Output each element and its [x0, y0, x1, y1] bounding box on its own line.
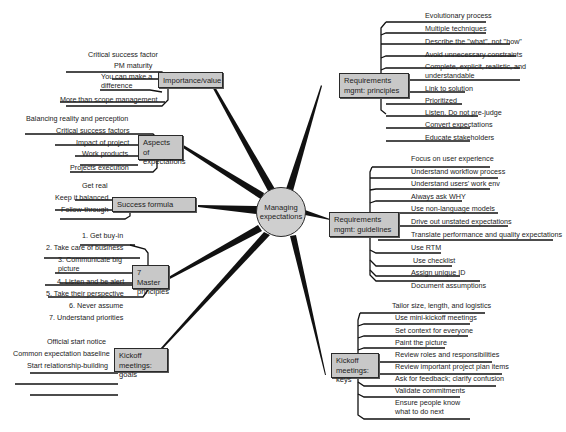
leaf-item: 4. Listen and be alert	[57, 277, 124, 286]
leaf-item: 3. Communicate big picture	[58, 255, 126, 273]
branch-importance-value[interactable]: Importance/value	[158, 72, 223, 88]
spoke-kickoff-goals	[152, 232, 270, 359]
spoke-req-guidelines	[305, 210, 330, 220]
leaf-item: Review roles and responsibilities	[395, 350, 499, 359]
leaf-item: Focus on user experience	[411, 154, 494, 163]
leaf-item: Evolutionary process	[425, 11, 492, 20]
leaf-item: 6. Never assume	[69, 301, 123, 310]
branch-label: Importance/value	[163, 76, 221, 85]
branch-label: Requirements mgmt: guidelines	[334, 215, 391, 234]
branch-7-master-principles[interactable]: 7 Master principles	[132, 265, 169, 289]
branch-kickoff-meetings-keys[interactable]: Kickoff meetings: keys	[331, 353, 379, 378]
leaf-item: Paint the picture	[395, 338, 447, 347]
leaf-item: Get real	[82, 181, 108, 190]
leaf-item: Use checklist	[413, 256, 455, 265]
leaf-item: Listen. Do not pre-judge	[425, 108, 502, 117]
leaf-item: Link to solution	[425, 84, 473, 93]
leaf-item: Start relationship-building	[27, 361, 108, 370]
leaf-item: Critical success factors	[56, 126, 130, 135]
spoke-importance	[209, 80, 275, 191]
spoke-success	[198, 205, 257, 214]
leaf-item: 5. Take their perspective	[46, 289, 124, 298]
leaf-item: Work products	[82, 149, 128, 158]
leaf-item: You can make a difference	[101, 72, 157, 90]
branch-label: 7 Master principles	[137, 268, 169, 296]
leaf-item: Understand users' work env	[411, 179, 500, 188]
leaf-item: Balancing reality and perception	[26, 114, 128, 123]
leaf-item: Use non-language models	[411, 204, 495, 213]
branch-requirements-principles[interactable]: Requirements mgmt: principles	[339, 73, 409, 98]
leaf-item: More than scope management	[60, 95, 158, 104]
leaf-item: Educate stakeholders	[425, 133, 494, 142]
branch-kickoff-meetings-goals[interactable]: Kickoff meetings: goals	[114, 348, 168, 372]
leaf-item: Assign unique ID	[411, 268, 465, 277]
leaf-item: Keep it balanced	[55, 193, 109, 202]
leaf-item: Translate performance and quality expect…	[411, 230, 562, 239]
leaf-item: Document assumptions	[411, 281, 486, 290]
leaf-item: Validate commitments	[395, 386, 465, 395]
leaf-item: Use mini-kickoff meetings	[395, 313, 477, 322]
leaf-item: Understand workflow process	[411, 167, 505, 176]
center-node[interactable]: Managing expectations	[256, 187, 306, 237]
leaf-item: Ensure people know what to do next	[395, 398, 477, 416]
branch-requirements-guidelines[interactable]: Requirements mgmt: guidelines	[329, 212, 399, 237]
leaf-item: Follow-through	[61, 205, 109, 214]
leaf-item: Common expectation baseline	[13, 349, 110, 358]
leaf-item: Drive out unstated expectations	[411, 217, 512, 226]
leaf-item: 1. Get buy-in	[82, 231, 123, 240]
leaf-item: Impact of project	[76, 138, 129, 147]
leaf-item: Tailor size, length, and logistics	[392, 301, 491, 310]
leaf-item: Official start notice	[47, 337, 106, 346]
leaf-item: Ask for feedback; clarify confusion	[395, 374, 504, 383]
leaf-item: Use RTM	[411, 243, 441, 252]
leaf-item: Avoid unnecessary constraints	[425, 50, 522, 59]
branch-label: Requirements mgmt: principles	[344, 76, 399, 95]
leaf-item: Set context for everyone	[395, 326, 473, 335]
branch-aspects-of-expectations[interactable]: Aspects of expectations	[138, 135, 183, 160]
leaf-item: PM maturity	[114, 61, 152, 70]
leaf-item: Review important project plan items	[395, 362, 509, 371]
leaf-item: Critical success factor	[88, 50, 158, 59]
leaf-item: Describe the "what", not "how"	[425, 37, 522, 46]
leaf-item: Prioritized	[425, 96, 457, 105]
spoke-kickoff-keys	[290, 235, 326, 375]
leaf-item: 7. Understand priorities	[49, 313, 123, 322]
leaf-item: Always ask WHY	[411, 192, 466, 201]
leaf-item: Multiple techniques	[425, 24, 487, 33]
center-node-label: Managing expectations	[257, 203, 305, 222]
branch-label: Aspects of expectations	[143, 138, 186, 166]
branch-success-formula[interactable]: Success formula	[112, 197, 196, 212]
leaf-item: Convert expectations	[425, 120, 493, 129]
leaf-item: Projects execution	[70, 163, 129, 172]
branch-label: Success formula	[117, 200, 173, 209]
hub-spokes	[152, 80, 330, 375]
leaf-item: Complete, explicit, realistic, and under…	[425, 62, 565, 80]
spoke-req-principles	[286, 85, 322, 191]
leaf-item: 2. Take care of business	[46, 243, 123, 252]
